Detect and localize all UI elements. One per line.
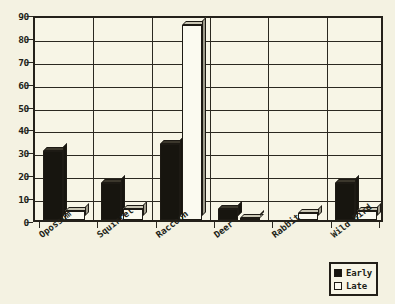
- bar-side: [143, 201, 147, 216]
- gridline-60: [35, 87, 381, 88]
- x-tick-mark-2: [156, 222, 157, 228]
- y-tick-label-80: 80: [3, 33, 29, 44]
- bar-face: [182, 25, 202, 220]
- chart-legend: Early Late: [329, 262, 378, 296]
- plot-area: [33, 16, 383, 222]
- legend-label-late: Late: [346, 281, 367, 291]
- group-divider-3: [210, 18, 211, 220]
- bar-deer-late: [240, 218, 260, 220]
- bar-side: [377, 203, 381, 216]
- bar-raccoon-late: [182, 25, 202, 220]
- y-tick-mark-0: [27, 222, 33, 223]
- bar-side: [238, 201, 242, 216]
- group-divider-5: [327, 18, 328, 220]
- x-tick-mark-3: [214, 222, 215, 228]
- x-tick-mark-4: [272, 222, 273, 228]
- legend-item-late: Late: [334, 279, 372, 292]
- bar-face: [240, 218, 260, 220]
- legend-item-early: Early: [334, 266, 372, 279]
- y-tick-label-60: 60: [3, 79, 29, 90]
- bar-side: [202, 17, 206, 216]
- bar-chart: 0102030405060708090 OpossumSquirrelRacco…: [0, 0, 395, 304]
- gridline-30: [35, 155, 381, 156]
- gridline-20: [35, 178, 381, 179]
- gridline-50: [35, 110, 381, 111]
- y-tick-label-20: 20: [3, 171, 29, 182]
- group-divider-4: [268, 18, 269, 220]
- bar-face: [43, 151, 63, 220]
- bar-face: [160, 144, 180, 220]
- y-tick-label-40: 40: [3, 125, 29, 136]
- group-divider-1: [93, 18, 94, 220]
- gridline-10: [35, 201, 381, 202]
- gridline-80: [35, 41, 381, 42]
- gridline-70: [35, 64, 381, 65]
- y-tick-label-10: 10: [3, 194, 29, 205]
- bar-raccoon-early: [160, 144, 180, 220]
- x-tick-mark-1: [97, 222, 98, 228]
- legend-label-early: Early: [346, 268, 372, 278]
- y-tick-label-30: 30: [3, 148, 29, 159]
- x-tick-mark-5: [331, 222, 332, 228]
- bar-opossum-early: [43, 151, 63, 220]
- group-divider-2: [152, 18, 153, 220]
- y-tick-label-50: 50: [3, 102, 29, 113]
- legend-swatch-early-icon: [334, 269, 342, 277]
- bar-side: [318, 205, 322, 216]
- bar-side: [63, 143, 67, 216]
- y-tick-label-0: 0: [3, 217, 29, 228]
- y-tick-label-90: 90: [3, 11, 29, 22]
- x-tick-mark-end: [379, 222, 380, 228]
- x-tick-mark-0: [39, 222, 40, 228]
- y-tick-label-70: 70: [3, 56, 29, 67]
- legend-swatch-late-icon: [334, 282, 342, 290]
- bar-side: [85, 203, 89, 216]
- gridline-40: [35, 132, 381, 133]
